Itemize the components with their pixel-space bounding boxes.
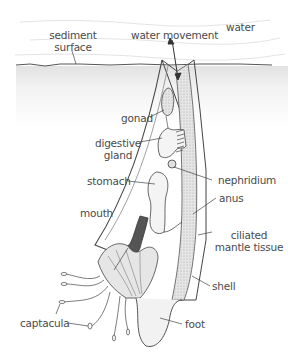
label-captacula: captacula xyxy=(20,317,69,329)
label-digestive-gland-line2: gland xyxy=(92,149,144,161)
stomach xyxy=(148,172,168,234)
label-water-movement: water movement xyxy=(131,29,218,41)
label-water: water xyxy=(226,21,255,33)
label-ciliated-mantle-tissue-line2: mantle tissue xyxy=(210,241,288,253)
gonad xyxy=(162,88,174,115)
nephridium xyxy=(168,160,176,168)
label-ciliated-mantle-tissue-line1: ciliated xyxy=(210,229,288,241)
label-gonad: gonad xyxy=(121,112,153,124)
intestine xyxy=(164,222,182,232)
label-ciliated-mantle-tissue: ciliated mantle tissue xyxy=(210,229,288,253)
label-sediment-surface: sediment surface xyxy=(42,29,104,53)
head-region xyxy=(98,244,158,298)
label-foot: foot xyxy=(185,318,205,330)
label-digestive-gland: digestive gland xyxy=(92,137,144,161)
label-shell: shell xyxy=(212,280,235,292)
label-digestive-gland-line1: digestive xyxy=(92,137,144,149)
label-anus: anus xyxy=(219,192,243,204)
label-sediment-surface-line1: sediment xyxy=(42,29,104,41)
label-mouth: mouth xyxy=(80,207,113,219)
label-sediment-surface-line2: surface xyxy=(42,41,104,53)
tusk-shell-diagram: water sediment surface water movement go… xyxy=(0,0,288,359)
label-stomach: stomach xyxy=(87,175,131,187)
label-nephridium: nephridium xyxy=(218,174,276,186)
sediment-surface-line xyxy=(16,64,272,66)
